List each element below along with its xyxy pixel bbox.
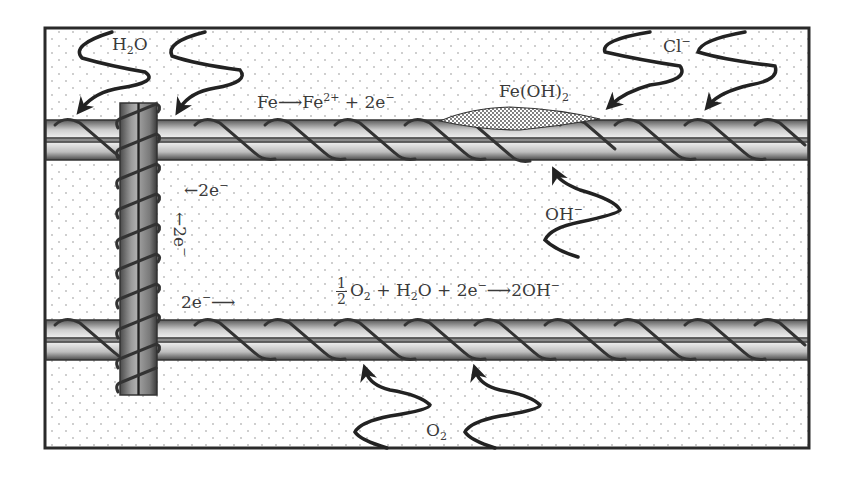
electron-flow-top-label: ←2e− xyxy=(184,180,228,199)
electron-flow-bottom-label: 2e−⟶ xyxy=(181,292,235,311)
anodic-reaction-label: Fe⟶Fe2+ + 2e− xyxy=(257,92,395,111)
electron-flow-vertical-label: ←2e− xyxy=(171,212,190,256)
oxygen-label: O2 xyxy=(426,422,447,442)
corrosion-diagram: H2O Cl− Fe⟶Fe2+ + 2e− Fe(OH)2 OH− ←2e− ←… xyxy=(0,0,849,477)
stirrup xyxy=(117,103,160,395)
half-fraction: 12 xyxy=(336,276,347,306)
cathodic-reaction-label: 12O2 + H2O + 2e−⟶2OH− xyxy=(336,276,560,306)
chloride-label: Cl− xyxy=(663,36,691,55)
water-label: H2O xyxy=(112,36,148,56)
diagram-canvas xyxy=(0,0,849,477)
rust-product-label: Fe(OH)2 xyxy=(499,83,569,103)
bottom-rebar xyxy=(46,319,808,360)
hydroxide-label: OH− xyxy=(545,204,583,223)
concrete-block xyxy=(45,28,809,448)
